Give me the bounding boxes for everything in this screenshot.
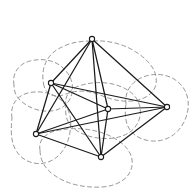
graph-vertex-bottom <box>98 154 103 159</box>
graph-vertex-right <box>164 104 169 109</box>
graph-diagram-canvas <box>0 0 196 196</box>
figure-root <box>0 0 196 196</box>
graph-vertex-lower-left <box>33 131 38 136</box>
graph-vertex-upper-left <box>48 80 53 85</box>
graph-vertex-top <box>89 36 94 41</box>
figure-background <box>0 0 196 196</box>
graph-vertex-center <box>105 106 110 111</box>
